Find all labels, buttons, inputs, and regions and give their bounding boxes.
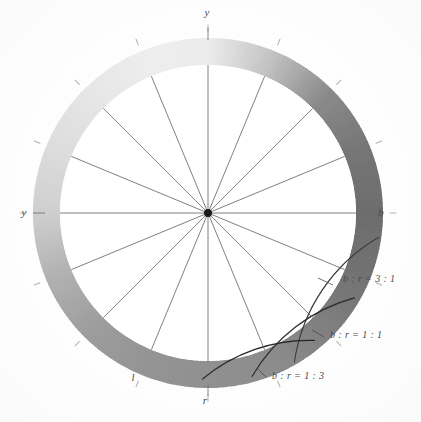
figure-canvas: y y b r l b : r = 3 : 1 b : r = 1 : 1 b … (0, 0, 421, 422)
annotation-ratio-3-1: b : r = 3 : 1 (343, 273, 396, 284)
annotation-ratio-1-3: b : r = 1 : 3 (272, 370, 325, 381)
axis-label-lower-left: l (131, 371, 134, 383)
axis-label-bottom: r (203, 394, 208, 406)
color-circle-diagram: y y b r l b : r = 3 : 1 b : r = 1 : 1 b … (0, 0, 421, 422)
axis-label-left: y (21, 206, 27, 218)
axis-label-right: b (378, 206, 384, 218)
annotation-ratio-1-1: b : r = 1 : 1 (330, 329, 383, 340)
axis-label-top: y (204, 6, 210, 18)
center-hub (204, 209, 212, 217)
